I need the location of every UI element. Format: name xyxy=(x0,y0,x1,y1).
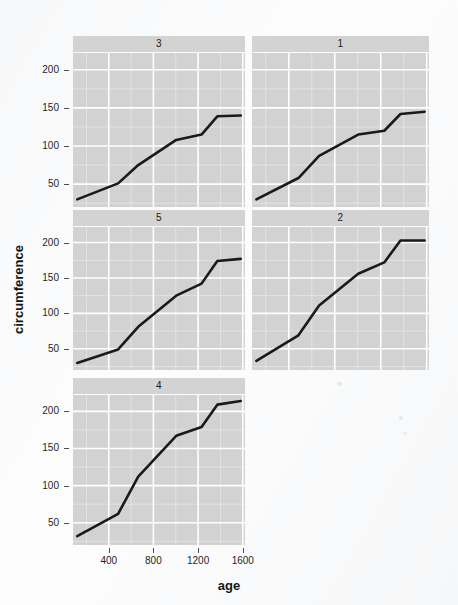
y-tick-mark xyxy=(64,243,69,244)
facet-strip-label-2: 2 xyxy=(252,210,429,226)
x-tick-mark xyxy=(198,548,199,553)
scan-speck xyxy=(404,432,407,435)
y-tick-mark xyxy=(64,70,69,71)
data-line-4 xyxy=(77,401,241,536)
facet-plot-region-3 xyxy=(73,53,245,207)
y-tick-mark xyxy=(64,349,69,350)
facet-panel-5: 5 xyxy=(73,210,245,370)
data-line-5 xyxy=(77,259,241,363)
x-tick-label: 1600 xyxy=(218,555,268,566)
y-tick-label: 200 xyxy=(29,405,59,416)
facet-plot-region-5 xyxy=(73,227,245,370)
y-tick-label: 150 xyxy=(29,442,59,453)
facet-strip-label-5: 5 xyxy=(73,210,245,226)
facet-strip-label-4: 4 xyxy=(73,378,245,394)
facet-strip-label-1: 1 xyxy=(252,36,429,52)
facet-panel-1: 1 xyxy=(252,36,429,207)
y-tick-mark xyxy=(64,486,69,487)
y-tick-label: 200 xyxy=(29,237,59,248)
y-tick-label: 200 xyxy=(29,64,59,75)
y-tick-mark xyxy=(64,523,69,524)
x-tick-label: 400 xyxy=(84,555,134,566)
y-tick-label: 50 xyxy=(29,178,59,189)
y-tick-mark xyxy=(64,313,69,314)
facet-panel-4: 4 xyxy=(73,378,245,545)
y-tick-mark xyxy=(64,448,69,449)
facet-plot-region-1 xyxy=(252,53,429,207)
x-tick-mark xyxy=(109,548,110,553)
facet-strip-label-3: 3 xyxy=(73,36,245,52)
data-line-2 xyxy=(256,240,424,360)
y-tick-label: 100 xyxy=(29,307,59,318)
y-tick-label: 100 xyxy=(29,480,59,491)
data-line-1 xyxy=(256,112,424,200)
chart-figure: 3501001502001550100150200245010015020040… xyxy=(0,0,458,605)
scan-speck xyxy=(399,416,403,420)
facet-panel-3: 3 xyxy=(73,36,245,207)
x-axis-title: age xyxy=(0,578,458,593)
scan-speck xyxy=(409,213,414,216)
scan-speck xyxy=(337,382,342,386)
x-tick-mark xyxy=(153,548,154,553)
y-axis-title: circumference xyxy=(10,190,28,390)
y-tick-mark xyxy=(64,411,69,412)
data-line-3 xyxy=(77,116,241,200)
y-tick-mark xyxy=(64,108,69,109)
x-tick-label: 800 xyxy=(128,555,178,566)
y-tick-label: 100 xyxy=(29,140,59,151)
y-tick-label: 50 xyxy=(29,517,59,528)
x-tick-label: 1200 xyxy=(173,555,223,566)
y-tick-mark xyxy=(64,278,69,279)
plot-area: 3501001502001550100150200245010015020040… xyxy=(0,0,458,605)
facet-plot-region-4 xyxy=(73,395,245,545)
y-tick-label: 150 xyxy=(29,102,59,113)
facet-plot-region-2 xyxy=(252,227,429,370)
x-tick-mark xyxy=(243,548,244,553)
facet-panel-2: 2 xyxy=(252,210,429,370)
scan-speck xyxy=(412,236,419,238)
y-tick-label: 50 xyxy=(29,343,59,354)
y-tick-mark xyxy=(64,184,69,185)
y-tick-label: 150 xyxy=(29,272,59,283)
y-tick-mark xyxy=(64,146,69,147)
